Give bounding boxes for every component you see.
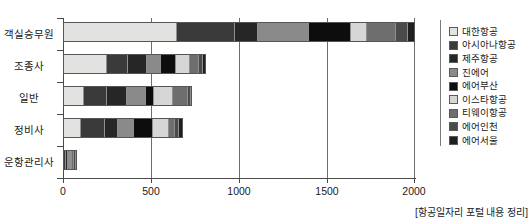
legend-swatch-icon (449, 95, 458, 104)
stacked-bar-chart: 객실승무원 조종사 일반 정비사 운항관리사 0 500 1000 1500 2… (0, 0, 532, 222)
bar-segment (63, 86, 84, 106)
bar-segment (63, 118, 81, 138)
legend-item-label: 티웨이항공 (462, 108, 507, 118)
gridline-2000 (414, 18, 415, 178)
bar-segment (81, 118, 106, 138)
x-axis-tick-2 (239, 178, 240, 183)
legend-item[interactable]: 에어부산 (449, 79, 531, 93)
legend-swatch-icon (449, 27, 458, 36)
x-axis-tick-label-3: 1500 (307, 185, 347, 197)
legend-item-label: 에어인천 (462, 122, 498, 132)
gridline-1000 (239, 18, 240, 178)
x-axis-tick-label-1: 500 (131, 185, 171, 197)
x-axis-tick-label-4: 2000 (394, 185, 434, 197)
bar-row (63, 86, 192, 106)
bar-segment (107, 86, 127, 106)
bar-row (63, 118, 183, 138)
legend-swatch-icon (449, 68, 458, 77)
bar-segment (118, 118, 134, 138)
bar-segment (203, 54, 206, 74)
x-axis-tick-label-0: 0 (43, 185, 83, 197)
legend-item[interactable]: 아시아나항공 (449, 39, 531, 53)
bar-segment (309, 22, 350, 42)
y-axis-label-3: 정비사 (2, 122, 56, 137)
legend-item-label: 이스타항공 (462, 95, 507, 105)
bar-segment (134, 118, 152, 138)
legend-item[interactable]: 티웨이항공 (449, 107, 531, 121)
bar-segment (63, 54, 107, 74)
bar-segment (154, 86, 173, 106)
legend-item-label: 에어서울 (462, 136, 498, 146)
bar-segment (367, 22, 395, 42)
bar-segment (127, 86, 145, 106)
bar-segment (146, 86, 154, 106)
x-axis-tick-label-2: 1000 (219, 185, 259, 197)
y-axis-label-2: 일반 (2, 90, 56, 105)
x-axis-tick-0 (63, 178, 64, 183)
legend-item-label: 에어부산 (462, 81, 498, 91)
bar-segment (191, 86, 193, 106)
bar-segment (176, 54, 190, 74)
legend-item[interactable]: 에어서울 (449, 134, 531, 148)
bar-segment (147, 54, 160, 74)
y-axis-label-0: 객실승무원 (2, 26, 56, 41)
bar-segment (177, 22, 235, 42)
bar-segment (173, 86, 188, 106)
legend: 대한항공아시아나항공제주항공진에어에어부산이스타항공티웨이항공에어인천에어서울 (449, 25, 531, 147)
legend-item[interactable]: 에어인천 (449, 120, 531, 134)
legend-swatch-icon (449, 41, 458, 50)
bar-segment (351, 22, 368, 42)
legend-swatch-icon (449, 109, 458, 118)
legend-divider (440, 20, 441, 146)
bar-segment (396, 22, 408, 42)
legend-swatch-icon (449, 82, 458, 91)
legend-item[interactable]: 이스타항공 (449, 93, 531, 107)
legend-item-label: 대한항공 (462, 27, 498, 37)
legend-swatch-icon (449, 136, 458, 145)
plot-area (63, 18, 415, 178)
bar-segment (63, 22, 177, 42)
legend-item-label: 아시아나항공 (462, 40, 516, 50)
y-axis-label-1: 조종사 (2, 58, 56, 73)
bar-segment (76, 150, 77, 170)
bar-segment (179, 118, 183, 138)
x-axis-tick-4 (414, 178, 415, 183)
legend-item-label: 제주항공 (462, 54, 498, 64)
bar-segment (161, 54, 176, 74)
legend-item[interactable]: 진에어 (449, 66, 531, 80)
legend-swatch-icon (449, 122, 458, 131)
gridline-1500 (327, 18, 328, 178)
bar-segment (128, 54, 147, 74)
bar-row (63, 54, 206, 74)
bar-segment (105, 118, 118, 138)
legend-swatch-icon (449, 54, 458, 63)
legend-item[interactable]: 제주항공 (449, 52, 531, 66)
x-axis-tick-1 (151, 178, 152, 183)
bar-segment (235, 22, 258, 42)
source-caption: [항공일자리 포털 내용 정리] (415, 204, 528, 219)
bar-row (63, 22, 415, 42)
bar-segment (408, 22, 415, 42)
bar-segment (153, 118, 170, 138)
x-axis-tick-3 (327, 178, 328, 183)
legend-item[interactable]: 대한항공 (449, 25, 531, 39)
bar-segment (190, 54, 200, 74)
bar-segment (107, 54, 128, 74)
bar-segment (84, 86, 107, 106)
bar-segment (258, 22, 309, 42)
legend-item-label: 진에어 (462, 68, 489, 78)
y-axis-label-4: 운항관리사 (2, 154, 56, 169)
bar-row (63, 150, 77, 170)
